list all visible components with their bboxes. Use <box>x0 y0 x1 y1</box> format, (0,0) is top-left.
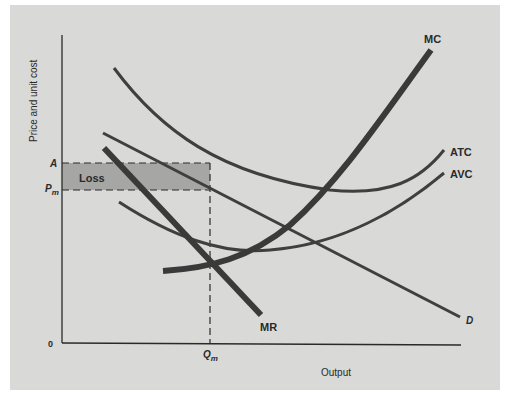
mc-label: MC <box>424 33 441 45</box>
x-axis <box>62 343 461 345</box>
x-tick-qm: Qm <box>203 349 218 363</box>
x-axis-title: Output <box>321 367 351 378</box>
atc-label: ATC <box>450 146 472 158</box>
y-axis-title: Price and unit cost <box>28 60 39 142</box>
y-tick-pm: Pm <box>45 183 59 197</box>
origin-label: 0 <box>48 339 53 349</box>
y-tick-a: A <box>49 158 57 169</box>
mr-label: MR <box>260 321 277 333</box>
avc-label: AVC <box>450 168 472 180</box>
mc-curve <box>163 50 431 271</box>
monopoly-loss-diagram: MC ATC AVC D MR Loss A Pm 0 Qm Output Pr… <box>0 0 509 409</box>
loss-label: Loss <box>79 172 105 184</box>
d-label: D <box>466 315 473 326</box>
